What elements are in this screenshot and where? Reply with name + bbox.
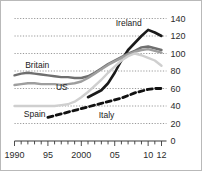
series-label-spain: Spain [24,109,46,119]
chart-frame: 020406080100120140 1990952000051012 Irel… [0,0,202,171]
y-tick-label: 60 [171,84,181,94]
y-tick-label: 80 [171,66,181,76]
x-tick-label: 1990 [4,150,24,160]
series-lines [15,30,162,118]
x-tick-label: 05 [110,150,120,160]
x-tick-labels: 1990952000051012 [4,150,166,160]
y-tick-label: 120 [171,31,186,41]
series-label-ireland: Ireland [116,18,142,28]
y-tick-label: 100 [171,49,186,59]
x-tick-label: 95 [43,150,53,160]
x-tick-label: 2000 [71,150,91,160]
y-tick-label: 20 [171,119,181,129]
series-label-britain: Britain [25,60,49,70]
y-tick-label: 40 [171,101,181,111]
series-line-ireland [88,30,162,97]
y-tick-label: 0 [171,136,176,146]
series-label-italy: Italy [99,110,115,120]
x-axis [15,141,167,146]
y-tick-labels: 020406080100120140 [171,14,186,147]
y-tick-label: 140 [171,14,186,24]
x-tick-label: 10 [143,150,153,160]
line-chart: 020406080100120140 1990952000051012 Irel… [1,1,202,171]
x-tick-label: 12 [156,150,166,160]
series-label-us: US [56,82,68,92]
